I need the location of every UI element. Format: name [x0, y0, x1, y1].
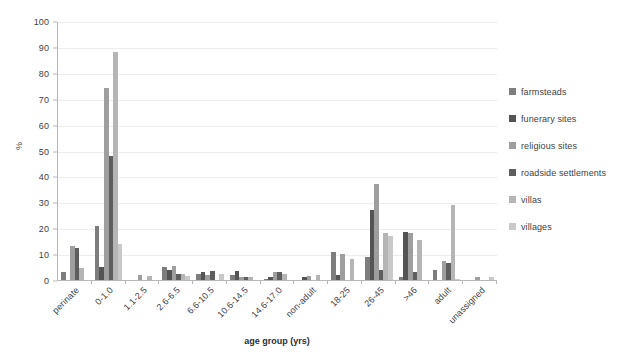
legend-item[interactable]: farmsteads [509, 78, 635, 105]
legend-label: farmsteads [521, 87, 567, 97]
bar-group [328, 22, 362, 280]
y-tick-label: 80 [39, 69, 49, 79]
bar [451, 205, 456, 280]
y-tick-label: 60 [39, 121, 49, 131]
legend-label: villages [521, 222, 552, 232]
x-tick-label: adult [432, 285, 453, 306]
bar-groups [58, 22, 497, 280]
x-tick-label: 18-25 [328, 285, 352, 309]
plot-area [57, 22, 497, 281]
bar [433, 270, 438, 280]
bar-group [227, 22, 261, 280]
legend-swatch-icon [509, 169, 516, 176]
y-axis-title: % [14, 142, 24, 150]
x-label-cell: non-adult [294, 281, 328, 337]
legend-label: religious sites [521, 141, 577, 151]
bar [248, 277, 253, 280]
x-axis-title: age group (yrs) [57, 336, 497, 346]
y-tick-label: 100 [34, 17, 49, 27]
legend-swatch-icon [509, 223, 516, 230]
x-label-cell: unassigned [463, 281, 497, 337]
x-label-cell: 26-45 [362, 281, 396, 337]
y-tick-label: 10 [39, 250, 49, 260]
legend: farmsteadsfunerary sitesreligious sitesr… [509, 78, 635, 240]
y-tick-label: 30 [39, 198, 49, 208]
bar [307, 276, 312, 280]
legend-swatch-icon [509, 196, 516, 203]
bar-chart: % 1009080706050403020100 perinate0-1.01.… [0, 0, 637, 362]
bar-group [58, 22, 92, 280]
bar-group [193, 22, 227, 280]
x-tick-label: 0-1.0 [93, 285, 115, 307]
bar-group [429, 22, 463, 280]
x-label-cell: 0-1.0 [91, 281, 125, 337]
legend-label: roadside settlements [521, 168, 606, 178]
bar-group [362, 22, 396, 280]
bar-group [159, 22, 193, 280]
bar [489, 277, 494, 280]
y-tick-label: 90 [39, 43, 49, 53]
y-tick-label: 20 [39, 224, 49, 234]
bar [455, 279, 460, 280]
legend-swatch-icon [509, 88, 516, 95]
y-tick-label: 0 [44, 276, 49, 286]
bar [118, 244, 123, 280]
bar-group [261, 22, 295, 280]
y-tick-label: 70 [39, 95, 49, 105]
legend-item[interactable]: funerary sites [509, 105, 635, 132]
legend-label: funerary sites [521, 114, 576, 124]
legend-item[interactable]: roadside settlements [509, 159, 635, 186]
y-tick-label: 50 [39, 147, 49, 157]
bar [147, 276, 152, 280]
x-label-cell: 18-25 [328, 281, 362, 337]
x-tick-label: >46 [401, 285, 419, 303]
x-tick-label: 1.1-2.5 [121, 285, 148, 312]
bar [374, 184, 379, 280]
bar [417, 240, 422, 280]
bar-group [92, 22, 126, 280]
bar [210, 271, 215, 280]
bar-group [396, 22, 430, 280]
x-axis-labels: perinate0-1.01.1-2.52.6-6.56.6-10.510.6-… [57, 281, 497, 337]
legend-item[interactable]: religious sites [509, 132, 635, 159]
x-tick-label: 26-45 [362, 285, 386, 309]
bar [61, 272, 66, 280]
x-label-cell: 1.1-2.5 [125, 281, 159, 337]
bar [219, 274, 224, 280]
y-tick-label: 40 [39, 172, 49, 182]
bar [350, 259, 355, 280]
bar [316, 275, 321, 280]
bar [185, 276, 190, 280]
legend-item[interactable]: villas [509, 186, 635, 213]
legend-swatch-icon [509, 142, 516, 149]
bar-group [126, 22, 160, 280]
x-label-cell: >46 [395, 281, 429, 337]
bar-group [463, 22, 497, 280]
bar [138, 275, 143, 280]
bar [282, 274, 287, 280]
bar [475, 277, 480, 280]
legend-label: villas [521, 195, 542, 205]
bar [79, 268, 84, 280]
x-tick-label: 2.6-6.5 [155, 285, 182, 312]
bar [340, 254, 345, 280]
y-axis: % 1009080706050403020100 [0, 0, 57, 281]
x-tick-label: perinate [50, 285, 81, 316]
legend-item[interactable]: villages [509, 213, 635, 240]
legend-swatch-icon [509, 115, 516, 122]
bar [388, 236, 393, 280]
bar-group [294, 22, 328, 280]
x-label-cell: perinate [57, 281, 91, 337]
